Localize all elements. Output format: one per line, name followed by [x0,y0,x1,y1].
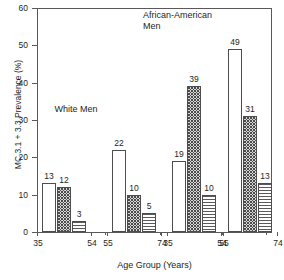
group-caption-african-american-men-line1: African-American [143,10,253,21]
bar-value-label: 39 [184,75,204,84]
x-tick-mark [167,232,168,236]
x-tick-label: 54 [84,239,100,248]
x-tick-mark [223,232,224,236]
x-axis-title: Age Group (Years) [37,260,272,270]
x-tick-mark [107,232,108,236]
bar [172,161,186,232]
bar-value-label: 13 [255,172,275,181]
bar-value-label: 31 [240,105,260,114]
plot-top-rule [37,8,272,9]
bar-value-label: 10 [124,184,144,193]
y-tick-label: 30 [0,116,28,125]
bar [187,86,201,232]
bar [228,49,242,232]
y-tick-label: 20 [0,153,28,162]
x-tick-mark [277,232,278,236]
bar-value-label: 3 [69,210,89,219]
x-tick-mark [91,232,92,236]
group-caption-african-american-men: African-American Men [143,10,253,32]
bar-value-label: 12 [54,176,74,185]
x-tick-mark-minor [105,232,106,235]
x-tick-mark [37,232,38,236]
y-tick-label: 40 [0,79,28,88]
group-caption-african-american-men-line2: Men [143,21,253,32]
group-caption-white-men-line1: White Men [36,104,116,115]
bar [142,213,156,232]
x-tick-label: 35 [160,239,176,248]
bar [42,183,56,232]
group-caption-white-men: White Men [36,104,116,115]
bar-value-label: 10 [199,184,219,193]
x-tick-label: 74 [270,239,284,248]
bar-value-label: 22 [109,139,129,148]
bar-chart: MC 3.1 + 3.3 Prevalence (%) 010203040506… [0,0,284,280]
y-tick-label: 10 [0,191,28,200]
x-tick-label: 55 [216,239,232,248]
bar-value-label: 49 [225,38,245,47]
x-axis-line [37,232,272,233]
bar [258,183,272,232]
bar-value-label: 19 [169,150,189,159]
x-tick-mark-minor [222,232,223,235]
x-tick-mark [161,232,162,236]
bar [127,195,141,232]
bar-value-label: 5 [139,202,159,211]
y-tick-label: 50 [0,41,28,50]
x-tick-mark-minor [266,232,267,235]
y-axis-line [37,8,38,233]
y-tick-label: 0 [0,228,28,237]
x-tick-mark-minor [160,232,161,235]
y-tick-label: 60 [0,4,28,13]
x-tick-label: 55 [100,239,116,248]
bar [72,221,86,232]
x-tick-label: 35 [30,239,46,248]
bar [202,195,216,232]
